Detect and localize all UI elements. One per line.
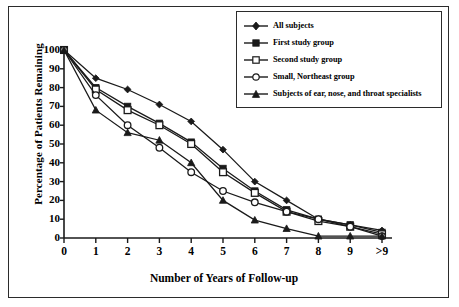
x-axis-tick-label: >9 [367,246,397,258]
data-point-marker-square-open [124,107,131,114]
legend-marker-square-open-icon [243,54,269,66]
legend-item: Second study group [243,51,437,68]
data-point-marker-triangle-filled [188,159,195,166]
data-point-marker-circle-open [124,122,131,129]
x-axis-tick-label: 6 [240,246,270,258]
legend-marker-square-filled-icon [243,37,269,49]
chart-figure: Percentage of Patients Remaining Number … [0,0,459,307]
legend-label: All subjects [273,21,314,30]
data-point-marker-circle-open [252,199,259,206]
data-point-marker-square-open [251,189,258,196]
legend-marker-circle-open-icon [243,71,269,83]
data-point-marker-diamond-filled [283,197,290,204]
legend-item: Subjects of ear, nose, and throat specia… [243,85,437,102]
data-point-marker-square-open [188,141,195,148]
legend-label: Small, Northeast group [273,72,355,81]
data-point-marker-circle-open [347,223,354,230]
data-point-marker-square-open [220,169,227,176]
x-axis-tick-label: 0 [49,246,79,258]
legend-marker-diamond-filled-icon [243,20,269,32]
data-point-marker-diamond-filled [124,86,131,93]
data-point-marker-circle-open [156,144,163,151]
data-point-marker-triangle-filled [92,106,99,113]
legend-label: Second study group [273,55,342,64]
x-axis-tick-label: 5 [208,246,238,258]
data-point-marker-circle-open [283,208,290,215]
x-axis-tick-label: 7 [272,246,302,258]
legend-item: All subjects [243,17,437,34]
data-point-marker-square-open [156,122,163,129]
data-point-marker-circle-open [315,216,322,223]
data-point-marker-triangle-filled [251,216,258,223]
data-point-marker-triangle-filled [124,129,131,136]
data-point-marker-circle-open [188,169,195,176]
x-axis-tick-label: 3 [144,246,174,258]
data-point-marker-circle-open [220,188,227,195]
x-axis-tick-label: 9 [335,246,365,258]
legend-marker-triangle-filled-icon [243,88,269,100]
legend-label: Subjects of ear, nose, and throat specia… [273,89,421,98]
x-axis-tick-label: 8 [303,246,333,258]
x-axis-tick-label: 4 [176,246,206,258]
data-point-marker-diamond-filled [156,101,163,108]
legend-label: First study group [273,38,334,47]
legend-item: First study group [243,34,437,51]
data-point-marker-circle-open [93,92,100,99]
x-axis-tick-label: 1 [81,246,111,258]
legend-item: Small, Northeast group [243,68,437,85]
chart-legend: All subjects First study group Second st… [236,11,442,108]
x-axis-tick-label: 2 [113,246,143,258]
